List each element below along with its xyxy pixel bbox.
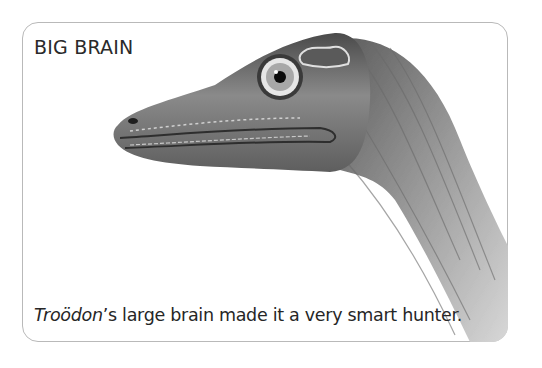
caption-text: ’s large brain made it a very smart hunt… bbox=[103, 305, 462, 325]
caption-species: Troödon bbox=[34, 305, 103, 325]
nostril bbox=[128, 118, 138, 124]
card-caption: Troödon’s large brain made it a very sma… bbox=[34, 305, 462, 325]
card-title: BIG BRAIN bbox=[34, 36, 133, 58]
brain-highlight bbox=[300, 47, 349, 67]
